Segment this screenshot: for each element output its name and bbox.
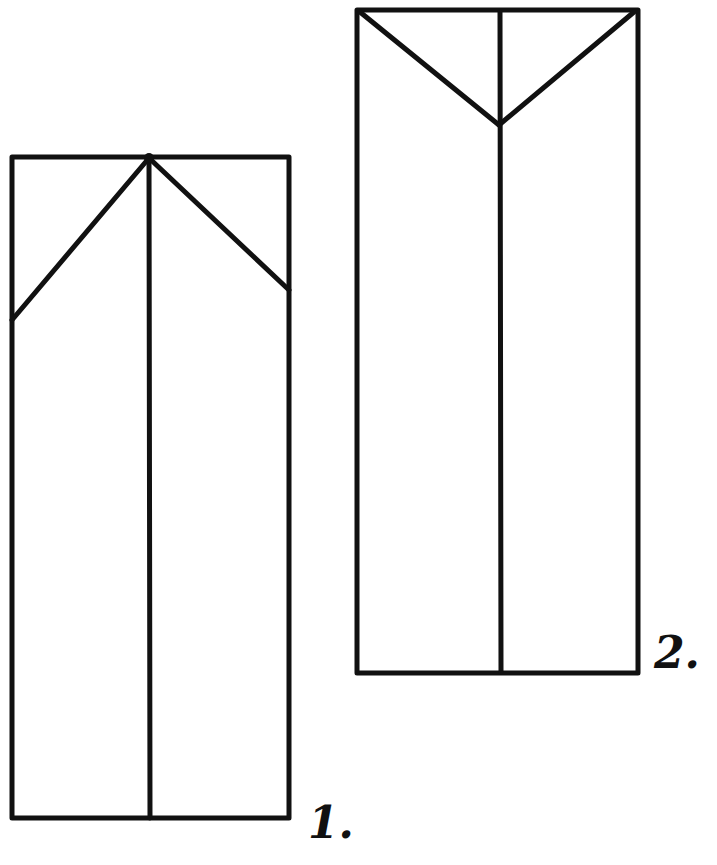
step-2-label: 2. (653, 627, 700, 678)
step-1-label: 1. (308, 797, 354, 848)
step-2-drawing: 2. (357, 10, 700, 678)
step-1-center-crease (149, 158, 150, 818)
step-2-paper-outline (357, 10, 638, 673)
step-1-drawing: 1. (12, 153, 354, 848)
step-1-left-fold-line (12, 158, 149, 320)
origami-diagram: 1. 2. (0, 0, 717, 865)
step-2-center-crease (500, 12, 501, 672)
step-1-right-fold-line (149, 158, 289, 290)
step-2-right-fold-line (499, 12, 634, 125)
step-2-left-fold-line (360, 12, 499, 125)
step-1-apex-point (144, 153, 154, 163)
